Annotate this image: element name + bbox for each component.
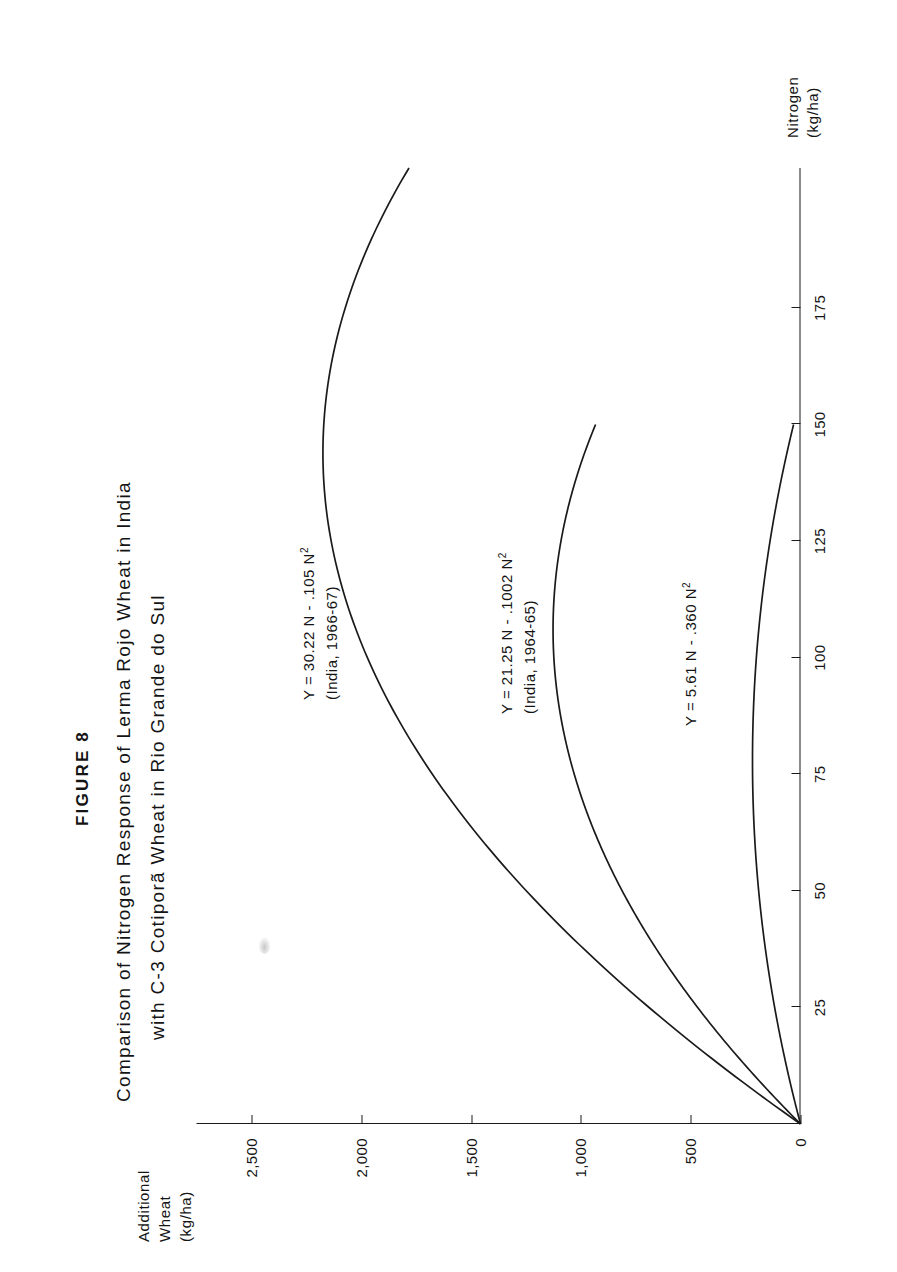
annotation-equation-1966-67-line-2: (India, 1966-67): [319, 547, 342, 700]
curve-india-1964-65: [553, 424, 800, 1124]
annotation-equation-1964-65-line-1: Y = 21.25 N - .1002 N2: [490, 552, 517, 714]
annotation-equation-rio-grande: Y = 5.61 N - .360 N2: [674, 582, 701, 726]
x-axis-title: Nitrogen (kg/ha): [782, 77, 822, 139]
x-axis-tick-label: 25: [810, 999, 827, 1017]
y-axis-title-line-3: (kg/ha): [174, 1170, 195, 1242]
annotation-equation-rio-grande-line-1: Y = 5.61 N - .360 N2: [674, 582, 701, 726]
x-axis-tick-label: 75: [810, 765, 827, 783]
annotation-equation-1966-67-line-1: Y = 30.22 N - .105 N2: [292, 547, 319, 700]
y-axis-title-line-2: Wheat: [153, 1170, 174, 1242]
x-axis-title-line-2: (kg/ha): [802, 77, 822, 139]
eq1-exponent: 2: [298, 547, 309, 553]
eq3-exponent: 2: [680, 582, 691, 588]
x-axis-title-line-1: Nitrogen: [782, 77, 802, 139]
y-axis-tick-label: 1,500: [462, 1138, 479, 1178]
annotation-equation-1964-65: Y = 21.25 N - .1002 N2 (India, 1964-65): [490, 552, 540, 714]
x-axis-tick-label: 50: [810, 882, 827, 900]
y-axis-title: Additional Wheat (kg/ha): [132, 1170, 195, 1242]
annotation-equation-1964-65-line-2: (India, 1964-65): [517, 552, 540, 714]
curve-india-1966-67: [322, 168, 800, 1124]
figure-number: FIGURE 8: [72, 730, 92, 826]
y-axis-title-line-1: Additional: [132, 1170, 153, 1242]
x-axis-tick-label: 100: [810, 645, 827, 671]
x-axis-tick-label: 150: [810, 411, 827, 437]
figure-title-line-2: with C-3 Cotiporã Wheat in Rio Grande do…: [146, 594, 168, 1040]
figure-title-line-1: Comparison of Nitrogen Response of Lerma…: [112, 481, 134, 1102]
y-axis-tick-label: 1,000: [572, 1138, 589, 1178]
figure-canvas: FIGURE 8 Comparison of Nitrogen Response…: [0, 0, 897, 1272]
annotation-equation-1966-67: Y = 30.22 N - .105 N2 (India, 1966-67): [292, 547, 342, 700]
x-axis-tick-label: 125: [810, 528, 827, 554]
curve-rio-grande-do-sul: [752, 424, 800, 1124]
y-axis-tick-label: 2,500: [242, 1138, 259, 1178]
eq1-text: Y = 30.22 N - .105 N: [299, 553, 316, 700]
y-axis-tick-label: 2,000: [352, 1138, 369, 1178]
eq2-text: Y = 21.25 N - .1002 N: [497, 558, 514, 714]
y-axis-tick-label: 500: [682, 1138, 699, 1164]
y-axis-tick-label: 0: [792, 1138, 809, 1147]
eq2-exponent: 2: [496, 552, 507, 558]
plot-area: 25 50 75 100 125 150 175 0 500 1,000 1,5…: [196, 168, 800, 1124]
eq3-text: Y = 5.61 N - .360 N: [681, 588, 698, 726]
x-axis-tick-label: 175: [810, 295, 827, 321]
